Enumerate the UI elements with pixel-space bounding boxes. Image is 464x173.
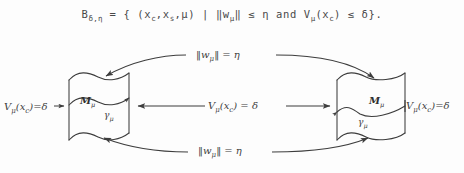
left-open: (x — [16, 101, 26, 112]
right-open: (x — [418, 100, 428, 111]
left-manifold-label: Mμ — [80, 95, 95, 109]
right-curve-label: γμ — [358, 117, 368, 130]
bottom-arc-rest: ‖ = η — [216, 145, 242, 156]
left-surface-gamma-curve — [69, 98, 129, 105]
right-tail: )=δ — [431, 100, 449, 111]
left-curve-label: γμ — [104, 110, 114, 123]
left-manifold-subscript: μ — [91, 101, 95, 109]
bottom-arc-norm: ‖w — [198, 145, 212, 156]
right-surface-bottom-edge — [337, 133, 405, 140]
middle-tail: ) = δ — [233, 100, 258, 111]
middle-open: (x — [220, 100, 230, 111]
right-manifold-subscript: μ — [380, 101, 384, 109]
left-surface-top-edge — [69, 73, 129, 80]
bottom-arc-label: ‖wμ‖ = η — [198, 146, 242, 159]
left-curve-subscript: μ — [109, 115, 113, 123]
left-surface-value-label: Vμ(xc)=δ — [4, 102, 48, 115]
bottom-arc-left-segment — [104, 138, 188, 152]
right-surface-value-label: Vμ(xc)=δ — [406, 101, 450, 114]
bottom-arc-right-segment — [272, 138, 368, 152]
top-arc-norm: ‖w — [196, 49, 210, 60]
left-tail: )=δ — [29, 101, 47, 112]
top-arc-rest: ‖ = η — [214, 49, 240, 60]
top-arc-label: ‖wμ‖ = η — [196, 50, 240, 63]
left-manifold-name: M — [80, 95, 91, 106]
left-surface-bottom-edge — [69, 133, 129, 140]
left-surface — [69, 73, 129, 140]
right-manifold-name: M — [369, 95, 380, 106]
right-manifold-label: Mμ — [369, 95, 384, 109]
middle-arrow-label: Vμ(xc) = δ — [208, 101, 258, 114]
figure-canvas: Bδ,η = { (xc,xs,μ) | ‖wμ‖ ≤ η and Vμ(xc)… — [0, 0, 464, 173]
top-arc-left-segment — [106, 55, 186, 76]
right-curve-subscript: μ — [363, 122, 367, 130]
